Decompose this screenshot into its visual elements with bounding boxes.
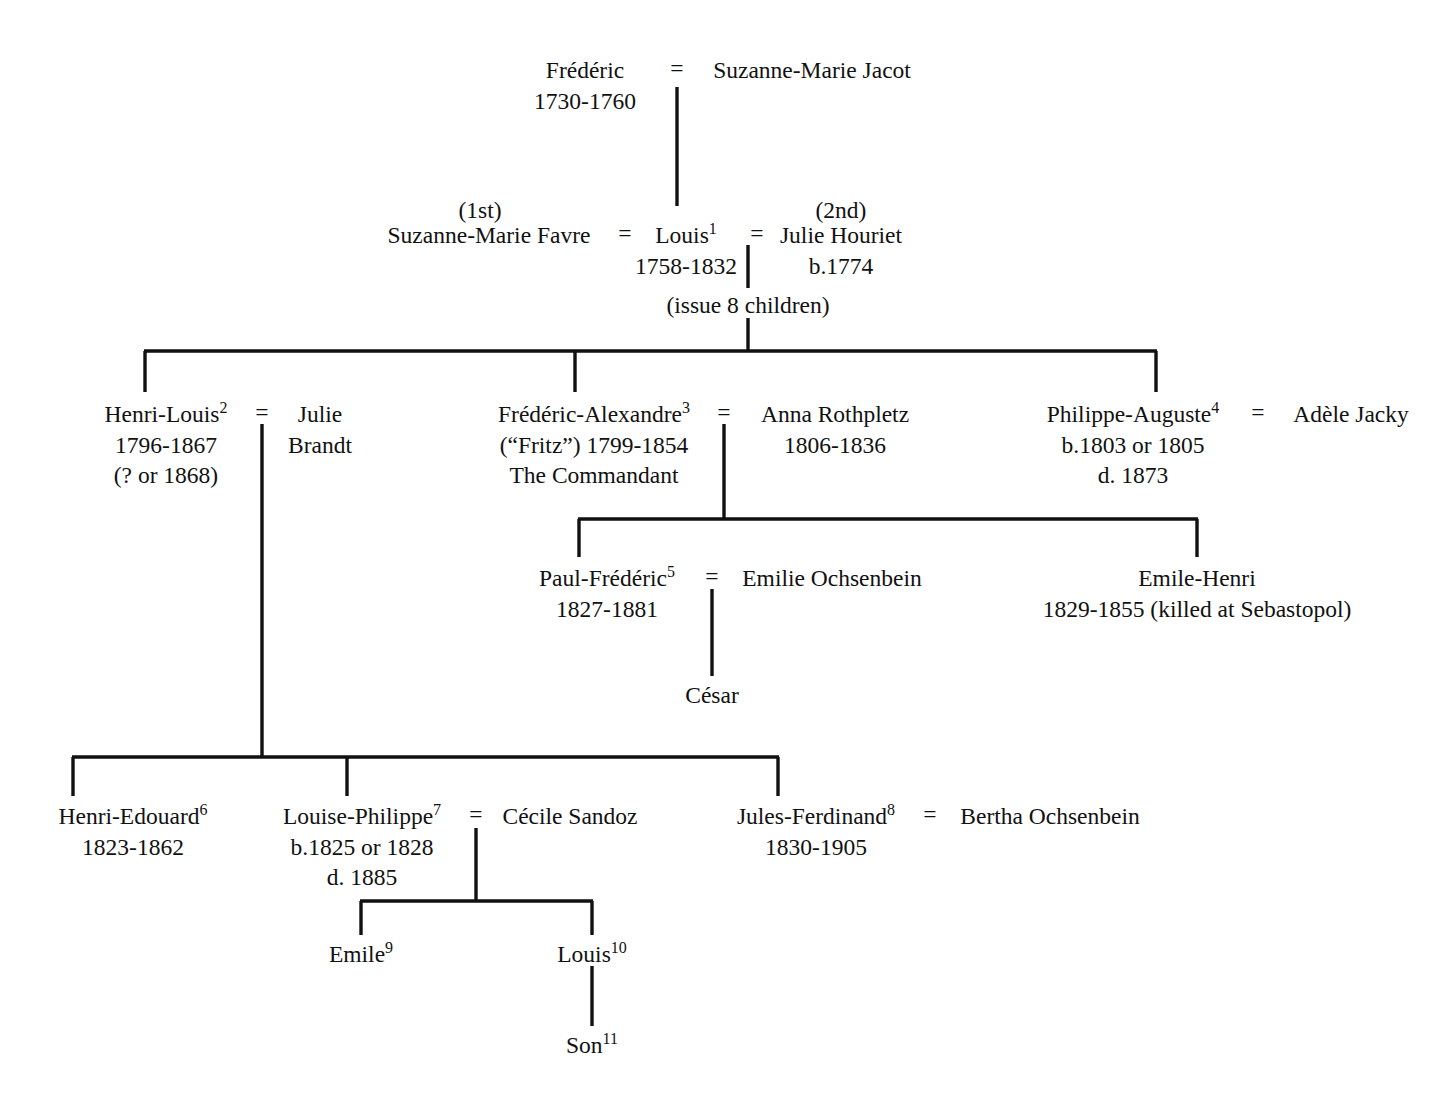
person-son-11: Son11 bbox=[566, 1030, 618, 1061]
family-tree-diagram: Frédéric 1730-1760 = Suzanne-Marie Jacot… bbox=[0, 0, 1445, 1109]
person-anna-rothpletz-dates: 1806-1836 bbox=[761, 430, 909, 461]
person-julie-brandt-line1: Julie bbox=[288, 399, 352, 430]
person-julie-brandt: Julie Brandt bbox=[288, 399, 352, 460]
footnote-marker-1: 1 bbox=[709, 220, 717, 237]
person-son-11-name: Son11 bbox=[566, 1030, 618, 1061]
connector-lines bbox=[0, 0, 1445, 1109]
person-julie-houriet-name: Julie Houriet bbox=[780, 220, 902, 251]
person-frederic-name: Frédéric bbox=[534, 55, 636, 86]
marriage-equals-jules-bertha: = bbox=[923, 801, 936, 828]
person-cesar-name: César bbox=[685, 680, 739, 711]
person-jules-ferdinand-8-dates: 1830-1905 bbox=[737, 832, 895, 863]
person-paul-frederic-5-dates: 1827-1881 bbox=[539, 594, 675, 625]
person-emile-henri: Emile-Henri 1829-1855 (killed at Sebasto… bbox=[1043, 563, 1352, 624]
person-frederic-dates: 1730-1760 bbox=[534, 86, 636, 117]
marriage-equals-favre-louis: = bbox=[618, 220, 631, 247]
person-philippe-auguste-4: Philippe-Auguste4 b.1803 or 1805 d. 1873 bbox=[1047, 399, 1219, 491]
person-philippe-auguste-4-dates: b.1803 or 1805 bbox=[1047, 430, 1219, 461]
person-louise-philippe-7-note: d. 1885 bbox=[283, 862, 441, 893]
person-adele-jacky: Adèle Jacky bbox=[1293, 399, 1409, 430]
person-frederic-alexandre-3-name: Frédéric-Alexandre3 bbox=[498, 399, 690, 430]
person-anna-rothpletz: Anna Rothpletz 1806-1836 bbox=[761, 399, 909, 460]
person-louis-1-name: Louis1 bbox=[635, 220, 737, 251]
person-suzanne-marie-jacot: Suzanne-Marie Jacot bbox=[713, 55, 911, 86]
person-suzanne-marie-favre-name: Suzanne-Marie Favre bbox=[388, 220, 591, 251]
person-louis-1: Louis1 1758-1832 bbox=[635, 220, 737, 281]
person-louise-philippe-7-dates: b.1825 or 1828 bbox=[283, 832, 441, 863]
person-emile-henri-dates: 1829-1855 (killed at Sebastopol) bbox=[1043, 594, 1352, 625]
person-paul-frederic-5: Paul-Frédéric5 1827-1881 bbox=[539, 563, 675, 624]
person-emile-9: Emile9 bbox=[329, 939, 393, 970]
person-emile-henri-name: Emile-Henri bbox=[1043, 563, 1352, 594]
person-julie-brandt-line2: Brandt bbox=[288, 430, 352, 461]
person-jules-ferdinand-8: Jules-Ferdinand8 1830-1905 bbox=[737, 801, 895, 862]
person-henri-louis-2-name: Henri-Louis2 bbox=[105, 399, 228, 430]
footnote-marker-9: 9 bbox=[385, 939, 393, 956]
person-louise-philippe-7: Louise-Philippe7 b.1825 or 1828 d. 1885 bbox=[283, 801, 441, 893]
person-cecile-sandoz: Cécile Sandoz bbox=[502, 801, 637, 832]
person-louis-10: Louis10 bbox=[557, 939, 627, 970]
person-frederic-alexandre-3: Frédéric-Alexandre3 (“Fritz”) 1799-1854 … bbox=[498, 399, 690, 491]
person-henri-edouard-6: Henri-Edouard6 1823-1862 bbox=[59, 801, 208, 862]
footnote-marker-3: 3 bbox=[682, 399, 690, 416]
person-bertha-ochsenbein-name: Bertha Ochsenbein bbox=[960, 801, 1139, 832]
person-louis-1-dates: 1758-1832 bbox=[635, 251, 737, 282]
person-jules-ferdinand-8-name: Jules-Ferdinand8 bbox=[737, 801, 895, 832]
person-louise-philippe-7-name: Louise-Philippe7 bbox=[283, 801, 441, 832]
person-julie-houriet: Julie Houriet b.1774 bbox=[780, 220, 902, 281]
footnote-marker-6: 6 bbox=[199, 801, 207, 818]
person-frederic: Frédéric 1730-1760 bbox=[534, 55, 636, 116]
person-philippe-auguste-4-note: d. 1873 bbox=[1047, 460, 1219, 491]
footnote-marker-4: 4 bbox=[1211, 399, 1219, 416]
person-henri-louis-2: Henri-Louis2 1796-1867 (? or 1868) bbox=[105, 399, 228, 491]
person-suzanne-marie-favre: Suzanne-Marie Favre bbox=[388, 220, 591, 251]
person-henri-edouard-6-name: Henri-Edouard6 bbox=[59, 801, 208, 832]
footnote-marker-7: 7 bbox=[433, 801, 441, 818]
footnote-marker-5: 5 bbox=[667, 563, 675, 580]
person-anna-rothpletz-name: Anna Rothpletz bbox=[761, 399, 909, 430]
marriage-equals-henrilouis-brandt: = bbox=[255, 399, 268, 426]
person-cesar: César bbox=[685, 680, 739, 711]
marriage-equals-fritz-rothpletz: = bbox=[717, 399, 730, 426]
person-philippe-auguste-4-name: Philippe-Auguste4 bbox=[1047, 399, 1219, 430]
footnote-marker-8: 8 bbox=[887, 801, 895, 818]
person-emile-9-name: Emile9 bbox=[329, 939, 393, 970]
person-adele-jacky-name: Adèle Jacky bbox=[1293, 399, 1409, 430]
person-julie-houriet-dates: b.1774 bbox=[780, 251, 902, 282]
marriage-equals-louisephilippe-sandoz: = bbox=[469, 801, 482, 828]
person-cecile-sandoz-name: Cécile Sandoz bbox=[502, 801, 637, 832]
footnote-marker-10: 10 bbox=[611, 939, 627, 956]
person-henri-louis-2-dates: 1796-1867 bbox=[105, 430, 228, 461]
person-emilie-ochsenbein: Emilie Ochsenbein bbox=[742, 563, 921, 594]
person-bertha-ochsenbein: Bertha Ochsenbein bbox=[960, 801, 1139, 832]
person-paul-frederic-5-name: Paul-Frédéric5 bbox=[539, 563, 675, 594]
footnote-marker-11: 11 bbox=[603, 1030, 618, 1047]
person-frederic-alexandre-3-note: The Commandant bbox=[498, 460, 690, 491]
issue-note: (issue 8 children) bbox=[666, 292, 829, 319]
person-henri-louis-2-note: (? or 1868) bbox=[105, 460, 228, 491]
marriage-equals-frederic: = bbox=[670, 55, 683, 82]
person-louis-10-name: Louis10 bbox=[557, 939, 627, 970]
footnote-marker-2: 2 bbox=[219, 399, 227, 416]
person-emilie-ochsenbein-name: Emilie Ochsenbein bbox=[742, 563, 921, 594]
person-frederic-alexandre-3-dates: (“Fritz”) 1799-1854 bbox=[498, 430, 690, 461]
marriage-equals-paul-emilie: = bbox=[705, 563, 718, 590]
person-suzanne-marie-jacot-name: Suzanne-Marie Jacot bbox=[713, 55, 911, 86]
person-henri-edouard-6-dates: 1823-1862 bbox=[59, 832, 208, 863]
marriage-equals-louis-houriet: = bbox=[750, 220, 763, 247]
marriage-equals-philippe-jacky: = bbox=[1251, 399, 1264, 426]
